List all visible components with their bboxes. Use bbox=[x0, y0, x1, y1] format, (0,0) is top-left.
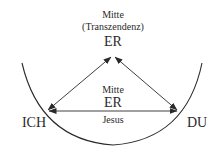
center-er-node: ER bbox=[104, 96, 122, 110]
top-er-node: ER bbox=[104, 35, 122, 49]
du-node: DU bbox=[187, 116, 207, 130]
center-mitte-label: Mitte bbox=[102, 85, 124, 95]
top-mitte-label: Mitte bbox=[102, 10, 124, 20]
arrow-du-to-top-er bbox=[115, 57, 177, 110]
ich-node: ICH bbox=[22, 116, 46, 130]
jesus-label: Jesus bbox=[102, 115, 123, 125]
diagram-canvas: Mitte (Transzendenz) ER Mitte ER Jesus I… bbox=[0, 0, 218, 147]
top-transzendenz-label: (Transzendenz) bbox=[82, 22, 144, 32]
